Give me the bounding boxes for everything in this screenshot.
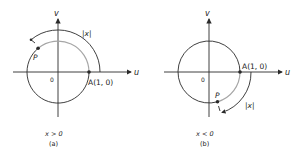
length-arc-tick bbox=[219, 106, 221, 111]
caption-label: (a) bbox=[49, 140, 58, 148]
u-axis-label: u bbox=[134, 68, 139, 77]
point-p-label: P bbox=[33, 53, 38, 62]
figure-b: v u 0 A(1, 0) P |x| x < 0 (b) bbox=[164, 9, 290, 148]
point-a-label: A(1, 0) bbox=[242, 62, 267, 71]
u-axis-label: u bbox=[285, 68, 290, 77]
v-axis-label: v bbox=[54, 9, 59, 18]
condition-label: x < 0 bbox=[195, 130, 214, 138]
origin-label: 0 bbox=[201, 76, 205, 83]
point-p-label: P bbox=[215, 91, 220, 100]
origin-label: 0 bbox=[50, 76, 54, 83]
unit-circle-diagrams: v u 0 A(1, 0) P |x| x > 0 (a) v u 0 A(1,… bbox=[0, 0, 300, 158]
point-a-label: A(1, 0) bbox=[88, 78, 113, 87]
point-p bbox=[216, 100, 220, 104]
point-p bbox=[36, 47, 40, 51]
length-arc-end-dot bbox=[30, 39, 33, 42]
arc-length-label: |x| bbox=[82, 29, 92, 38]
arc-a-to-p bbox=[38, 41, 89, 72]
v-axis-label: v bbox=[205, 9, 210, 18]
condition-label: x > 0 bbox=[44, 130, 63, 138]
caption-label: (b) bbox=[200, 140, 209, 148]
figure-a: v u 0 A(1, 0) P |x| x > 0 (a) bbox=[13, 9, 139, 148]
arc-length-label: |x| bbox=[245, 101, 255, 110]
point-a bbox=[87, 70, 91, 74]
arc-a-to-p bbox=[218, 72, 241, 102]
